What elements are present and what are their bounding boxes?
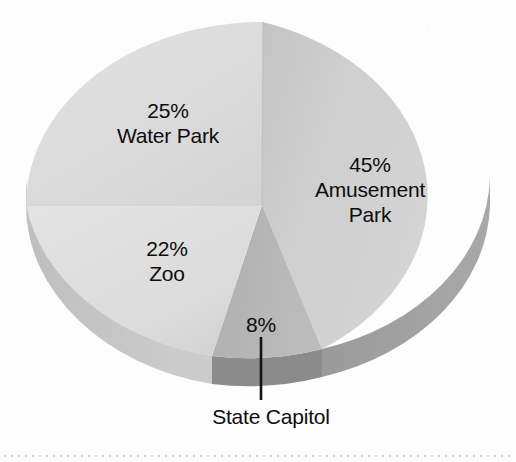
slice-label-zoo: 22% Zoo bbox=[92, 236, 242, 286]
slice-label-amusement-park: 45% Amusement Park bbox=[282, 152, 458, 227]
slice-label-state-capitol-name: State Capitol bbox=[176, 404, 366, 429]
pie-chart-figure: 25% Water Park 45% Amusement Park 22% Zo… bbox=[0, 0, 516, 462]
slice-label-water-park: 25% Water Park bbox=[78, 98, 258, 148]
pie-chart-canvas bbox=[0, 0, 516, 462]
slice-label-state-capitol-percent: 8% bbox=[205, 312, 317, 337]
